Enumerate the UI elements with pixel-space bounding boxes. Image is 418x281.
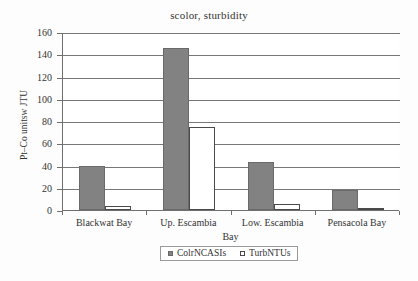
bar-turb bbox=[274, 204, 300, 210]
x-axis-title: Bay bbox=[62, 231, 399, 242]
legend-swatch-icon bbox=[240, 251, 245, 256]
legend-entry: ColrNCASIs bbox=[168, 248, 226, 258]
bar-group bbox=[63, 32, 147, 210]
y-axis-tick-label: 160 bbox=[12, 28, 52, 38]
y-axis-tick-label: 140 bbox=[12, 50, 52, 60]
chart-legend: ColrNCASIsTurbNTUs bbox=[160, 246, 298, 261]
y-axis-tick-label: 60 bbox=[12, 139, 52, 149]
bar-group bbox=[147, 32, 231, 210]
bar-colr bbox=[79, 166, 105, 211]
legend-label: TurbNTUs bbox=[249, 248, 290, 258]
y-axis-tick-label: 120 bbox=[12, 73, 52, 83]
y-axis-tick-label: 20 bbox=[12, 184, 52, 194]
legend-swatch-icon bbox=[168, 251, 173, 256]
y-axis-tick-label: 0 bbox=[12, 206, 52, 216]
x-axis-tick-mark bbox=[62, 211, 63, 215]
bar-group bbox=[232, 32, 316, 210]
x-axis-tick-label: Low. Escambia bbox=[231, 217, 315, 228]
bar-turb bbox=[105, 206, 131, 210]
x-axis-tick-label: Blackwat Bay bbox=[62, 217, 146, 228]
y-axis-tick-label: 100 bbox=[12, 95, 52, 105]
chart-title: scolor, sturbidity bbox=[0, 9, 418, 21]
bar-colr bbox=[163, 48, 189, 210]
x-axis-tick-label: Up. Escambia bbox=[146, 217, 230, 228]
y-axis-tick-label: 80 bbox=[12, 117, 52, 127]
legend-label: ColrNCASIs bbox=[177, 248, 226, 258]
x-axis-tick-mark bbox=[399, 211, 400, 215]
x-axis-tick-label: Pensacola Bay bbox=[315, 217, 399, 228]
x-axis-tick-mark bbox=[315, 211, 316, 215]
y-axis-tick-label: 40 bbox=[12, 162, 52, 172]
plot-area bbox=[62, 33, 399, 211]
bar-colr bbox=[248, 162, 274, 210]
bar-turb bbox=[358, 208, 384, 210]
bar-turb bbox=[189, 127, 215, 210]
x-axis-tick-mark bbox=[231, 211, 232, 215]
chart-figure: scolor, sturbidity Pt–Co unitsw JTU 0204… bbox=[0, 0, 418, 281]
x-axis-tick-mark bbox=[146, 211, 147, 215]
bar-colr bbox=[332, 190, 358, 210]
legend-entry: TurbNTUs bbox=[240, 248, 290, 258]
bar-group bbox=[316, 32, 400, 210]
